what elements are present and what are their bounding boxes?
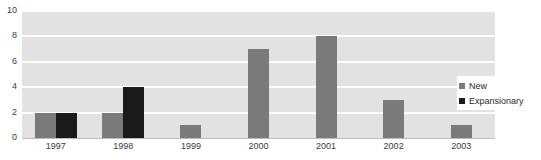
x-axis: 1997199819992000200120022003 <box>22 141 495 157</box>
bar-new-2003 <box>451 125 472 138</box>
x-axis-tick-label: 1999 <box>157 141 225 152</box>
bar-chart: · · · · · · · 0246810 199719981999200020… <box>0 0 541 160</box>
y-axis: 0246810 <box>0 8 20 138</box>
gridline <box>22 35 495 37</box>
y-axis-tick-label: 4 <box>12 82 17 91</box>
y-axis-tick-label: 0 <box>12 133 17 142</box>
y-axis-tick-label: 2 <box>12 108 17 117</box>
bar-expansionary-1997 <box>56 113 77 138</box>
x-axis-tick-label: 2003 <box>427 141 495 152</box>
legend-label: Expansionary <box>469 96 524 106</box>
x-axis-baseline <box>22 138 495 139</box>
x-axis-tick-label: 2000 <box>225 141 293 152</box>
chart-legend: NewExpansionary <box>457 76 525 110</box>
x-axis-tick-label: 1997 <box>22 141 90 152</box>
gridline <box>22 10 495 12</box>
x-axis-tick-label: 2001 <box>292 141 360 152</box>
legend-item-new: New <box>459 78 524 93</box>
bar-new-1998 <box>102 113 123 138</box>
bar-new-2002 <box>383 100 404 138</box>
bar-new-1997 <box>35 113 56 138</box>
legend-item-expansionary: Expansionary <box>459 93 524 108</box>
legend-swatch-icon <box>459 83 465 89</box>
bar-new-2000 <box>248 49 269 138</box>
cropped-title-text: · · · · · · · <box>0 0 35 3</box>
cropped-title-sliver: · · · · · · · <box>0 0 541 4</box>
plot-area <box>22 11 495 138</box>
y-axis-tick-label: 10 <box>7 6 17 15</box>
bar-new-1999 <box>180 125 201 138</box>
legend-label: New <box>469 81 487 91</box>
bar-new-2001 <box>316 36 337 138</box>
legend-swatch-icon <box>459 98 465 104</box>
x-axis-tick-label: 1998 <box>90 141 158 152</box>
y-axis-tick-label: 8 <box>12 31 17 40</box>
bar-expansionary-1998 <box>123 87 144 138</box>
x-axis-tick-label: 2002 <box>360 141 428 152</box>
y-axis-tick-label: 6 <box>12 57 17 66</box>
